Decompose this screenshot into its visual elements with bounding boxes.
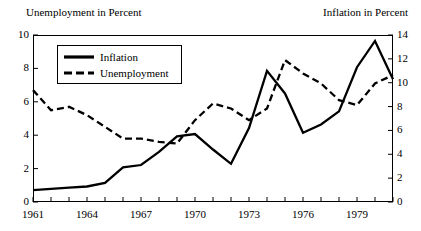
xtick-1970: 1970 [175,209,215,220]
xtick-1973: 1973 [229,209,269,220]
xtick-1967: 1967 [121,209,161,220]
ytick-right-12: 12 [397,53,421,64]
legend-item-inflation: Inflation [64,50,138,64]
ytick-right-4: 4 [397,148,421,159]
ytick-right-6: 6 [397,124,421,135]
ytick-left-6: 6 [3,96,29,107]
chart-legend: Inflation Unemployment [57,45,182,84]
xtick-1976: 1976 [283,209,323,220]
xtick-1964: 1964 [67,209,107,220]
legend-label-inflation: Inflation [100,51,138,63]
ytick-left-4: 4 [3,129,29,140]
phillips-curve-chart: Unemployment in Percent Inflation in Per… [0,0,421,231]
ytick-right-8: 8 [397,101,421,112]
ytick-right-14: 14 [397,29,421,40]
ytick-left-0: 0 [3,196,29,207]
ytick-right-10: 10 [397,77,421,88]
ytick-left-2: 2 [3,163,29,174]
ytick-left-10: 10 [3,29,29,40]
xtick-1979: 1979 [337,209,377,220]
ytick-right-0: 0 [397,196,421,207]
legend-item-unemployment: Unemployment [64,66,168,80]
dashed-line-icon [64,67,94,79]
legend-label-unemployment: Unemployment [100,67,168,79]
xtick-1961: 1961 [13,209,53,220]
solid-line-icon [64,51,94,63]
ytick-left-8: 8 [3,62,29,73]
ytick-right-2: 2 [397,172,421,183]
chart-canvas [0,0,421,231]
